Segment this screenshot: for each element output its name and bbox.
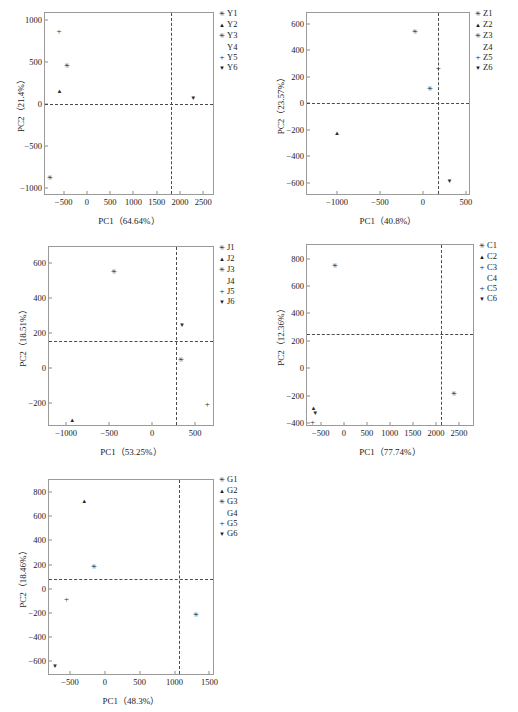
legend-marker-icon: ▼ [218,297,226,307]
legend-item-c5[interactable]: +C5 [478,283,497,293]
x-axis-label-z: PC1（40.8%） [306,214,470,227]
legend-label: J4 [226,276,235,286]
plot-area-c: −400−2000200400600800 −50005001000150020… [306,244,474,426]
legend-item-j1[interactable]: ✳J1 [218,242,235,253]
legend-item-c6[interactable]: ▼C6 [478,293,497,304]
legend-item-y1[interactable]: ✳Y1 [218,8,237,19]
y-tick-label: 200 [33,328,49,338]
x-tick-label: −500 [61,674,79,687]
y-tick-mark [307,258,310,259]
data-point-g2: ▲ [79,498,89,504]
y-tick-mark [45,145,48,146]
legend-marker-icon: ▲ [478,252,486,262]
x-tick-label: 500 [133,674,146,687]
y-axis-label-j: PC2（18.51%） [16,246,29,426]
legend-item-y6[interactable]: ▼Y6 [218,62,237,73]
legend-item-y4[interactable]: Y4 [218,42,237,52]
x-tick-label: 1000 [381,425,398,438]
y-tick-mark [49,540,52,541]
legend-label: G6 [226,528,237,538]
legend-item-j2[interactable]: ▲J2 [218,253,235,264]
legend-item-j3[interactable]: ✳J3 [218,264,235,275]
x-tick-mark [69,671,70,674]
x-tick-mark [389,422,390,425]
y-tick-label: 400 [33,293,49,303]
legend-marker-icon: ▲ [218,254,226,264]
legend-item-j5[interactable]: +J5 [218,286,235,296]
y-tick-mark [49,297,52,298]
x-axis-label-g: PC1（48.3%） [48,694,214,707]
x-tick-mark [343,422,344,425]
x-tick-label: 0 [342,425,346,438]
legend-label: J2 [226,253,235,263]
legend-item-g1[interactable]: ✳G1 [218,474,237,485]
legend-item-z1[interactable]: ✳Z1 [474,8,492,19]
legend-item-z2[interactable]: ▲Z2 [474,19,492,30]
data-point-z3: ✳ [425,86,435,93]
y-tick-mark [49,332,52,333]
y-tick-mark [307,368,310,369]
legend-marker-icon: + [218,286,226,296]
x-tick-label: 2000 [427,425,444,438]
y-tick-label: 200 [33,560,49,570]
legend-item-y2[interactable]: ▲Y2 [218,19,237,30]
y-tick-mark [49,613,52,614]
y-tick-label: 800 [33,487,49,497]
legend-item-y5[interactable]: +Y5 [218,52,237,62]
y-tick-mark [49,661,52,662]
legend-item-z6[interactable]: ▼Z6 [474,62,492,73]
legend-item-j4[interactable]: J4 [218,276,235,286]
x-tick-label: 2500 [195,194,212,207]
legend-label: Y5 [226,52,237,62]
x-axis-label-c: PC1（77.74%） [306,445,474,458]
data-point-c3: ✳ [449,390,459,397]
y-tick-mark [49,564,52,565]
x-tick-label: 500 [360,425,373,438]
x-tick-mark [104,671,105,674]
legend-item-y3[interactable]: ✳Y3 [218,30,237,41]
legend-label: Z5 [482,52,492,62]
legend-item-j6[interactable]: ▼J6 [218,296,235,307]
legend-item-z3[interactable]: ✳Z3 [474,30,492,41]
x-tick-label: 0 [150,425,154,438]
legend-marker-icon: + [478,262,486,272]
data-point-z6: ▼ [445,178,455,184]
legend-item-g5[interactable]: +G5 [218,518,237,528]
y-tick-label: 200 [291,72,307,82]
legend-item-c1[interactable]: ✳C1 [478,240,497,251]
legend-item-g3[interactable]: ✳G3 [218,496,237,507]
y-tick-mark [307,182,310,183]
x-tick-label: 0 [103,674,107,687]
legend-label: C2 [486,251,497,261]
legend-item-c4[interactable]: C4 [478,273,497,283]
y-tick-mark [307,50,310,51]
y-tick-label: 400 [291,308,307,318]
legend-label: G4 [226,508,237,518]
y-tick-mark [49,367,52,368]
x-tick-mark [110,191,111,194]
y-tick-label: 0 [300,98,307,108]
plot-area-z: −600−400−2000200400600 −1000−5000500 ✳+✳… [306,12,470,195]
y-tick-mark [49,402,52,403]
legend-label: J6 [226,296,235,306]
x-tick-label: 500 [459,194,472,207]
y-tick-label: 0 [42,584,49,594]
plot-area-y: −1000−50005001000 −500050010001500200025… [44,12,214,195]
horizontal-reference-line [307,334,473,335]
x-tick-label: 1000 [166,674,183,687]
legend-item-z5[interactable]: +Z5 [474,52,492,62]
legend-item-g6[interactable]: ▼G6 [218,528,237,539]
legend-item-c3[interactable]: +C3 [478,262,497,272]
data-point-c2: ▲ [308,405,318,411]
legend-item-z4[interactable]: Z4 [474,42,492,52]
legend-marker-icon: ✳ [474,9,482,19]
y-tick-mark [307,313,310,314]
legend-label: C4 [486,273,497,283]
legend-item-c2[interactable]: ▲C2 [478,251,497,262]
x-tick-mark [156,191,157,194]
legend-item-g2[interactable]: ▲G2 [218,485,237,496]
legend-item-g4[interactable]: G4 [218,508,237,518]
legend-label: Z6 [482,62,492,72]
x-tick-mark [86,191,87,194]
x-tick-mark [180,191,181,194]
